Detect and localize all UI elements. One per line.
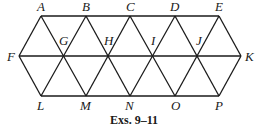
segment-FA xyxy=(19,16,41,56)
label-P: P xyxy=(214,98,223,113)
segment-FL xyxy=(19,56,41,96)
label-F: F xyxy=(6,49,16,64)
label-M: M xyxy=(79,98,92,113)
triangle-grid-figure: A B C D E F G H I J K L M N O P Exs. 9–1… xyxy=(0,0,259,132)
segment-PK xyxy=(219,56,241,96)
label-E: E xyxy=(214,0,223,14)
label-H: H xyxy=(103,33,114,48)
label-L: L xyxy=(36,98,44,113)
segment-EK xyxy=(219,16,241,56)
label-N: N xyxy=(124,98,135,113)
label-I: I xyxy=(150,33,156,48)
label-G: G xyxy=(59,33,69,48)
label-B: B xyxy=(82,0,90,14)
label-D: D xyxy=(169,0,180,14)
diagram-canvas: A B C D E F G H I J K L M N O P Exs. 9–1… xyxy=(0,0,259,132)
label-A: A xyxy=(36,0,45,14)
label-K: K xyxy=(244,49,255,64)
label-C: C xyxy=(126,0,135,14)
label-O: O xyxy=(171,98,181,113)
figure-caption: Exs. 9–11 xyxy=(110,113,158,127)
